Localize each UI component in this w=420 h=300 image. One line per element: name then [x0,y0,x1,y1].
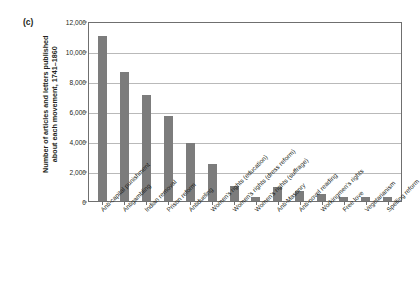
x-tick-label: Anti-novel reading [297,172,338,213]
